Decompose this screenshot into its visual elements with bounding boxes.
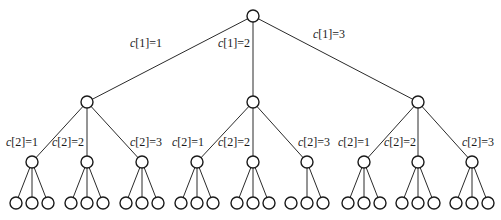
- leaf-node: [26, 197, 38, 209]
- leaf-node: [42, 197, 54, 209]
- edge-level2: [364, 102, 418, 162]
- edge-label: c[1]=3: [313, 27, 345, 41]
- edge-level2: [197, 102, 253, 162]
- level2-node: [358, 156, 370, 168]
- edge-level2: [253, 102, 307, 162]
- edge-label: c[2]=2: [218, 135, 250, 149]
- level2-node: [412, 156, 424, 168]
- edge-labels: c[1]=1c[1]=2c[1]=3c[2]=1c[2]=2c[2]=3c[2]…: [6, 27, 494, 149]
- leaf-node: [207, 197, 219, 209]
- root-node: [247, 10, 259, 22]
- nodes: [10, 10, 494, 209]
- leaf-node: [191, 197, 203, 209]
- leaf-node: [65, 197, 77, 209]
- level2-node: [81, 156, 93, 168]
- leaf-node: [175, 197, 187, 209]
- edge-label: c[1]=2: [218, 36, 250, 50]
- edge-label: c[2]=2: [52, 135, 84, 149]
- leaf-node: [358, 197, 370, 209]
- level2-node: [191, 156, 203, 168]
- edge-label: c[2]=1: [338, 135, 370, 149]
- edge-label: c[2]=3: [462, 135, 494, 149]
- edge-label: c[2]=1: [172, 135, 204, 149]
- level1-node: [247, 96, 259, 108]
- leaf-node: [81, 197, 93, 209]
- level2-node: [247, 156, 259, 168]
- edge-label: c[1]=1: [130, 36, 162, 50]
- tree-diagram: c[1]=1c[1]=2c[1]=3c[2]=1c[2]=2c[2]=3c[2]…: [0, 0, 501, 220]
- level2-node: [301, 156, 313, 168]
- edge-label: c[2]=1: [6, 135, 38, 149]
- edge-label: c[2]=2: [384, 135, 416, 149]
- edge-level1: [87, 16, 253, 102]
- tree-svg: c[1]=1c[1]=2c[1]=3c[2]=1c[2]=2c[2]=3c[2]…: [0, 0, 501, 220]
- leaf-node: [412, 197, 424, 209]
- leaf-node: [263, 197, 275, 209]
- leaf-node: [374, 197, 386, 209]
- edge-level2: [418, 102, 472, 162]
- leaf-node: [317, 197, 329, 209]
- leaf-node: [342, 197, 354, 209]
- leaf-node: [120, 197, 132, 209]
- leaf-node: [450, 197, 462, 209]
- edge-level2: [32, 102, 87, 162]
- leaf-node: [247, 197, 259, 209]
- leaf-node: [396, 197, 408, 209]
- edge-level2: [87, 102, 142, 162]
- leaf-node: [482, 197, 494, 209]
- level1-node: [412, 96, 424, 108]
- leaf-node: [231, 197, 243, 209]
- edge-label: c[2]=3: [298, 135, 330, 149]
- edge-label: c[2]=3: [130, 135, 162, 149]
- leaf-node: [152, 197, 164, 209]
- leaf-node: [136, 197, 148, 209]
- level2-node: [466, 156, 478, 168]
- level2-node: [136, 156, 148, 168]
- level2-node: [26, 156, 38, 168]
- leaf-node: [285, 197, 297, 209]
- leaf-node: [97, 197, 109, 209]
- leaf-node: [10, 197, 22, 209]
- leaf-node: [301, 197, 313, 209]
- leaf-node: [428, 197, 440, 209]
- edges: [16, 16, 488, 203]
- level1-node: [81, 96, 93, 108]
- leaf-node: [466, 197, 478, 209]
